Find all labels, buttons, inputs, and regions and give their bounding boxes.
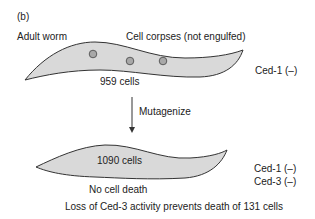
top-genotype-ced1: Ced-1 (–) (255, 65, 297, 77)
bottom-genotype-ced1: Ced-1 (–) (254, 163, 296, 175)
caption: Loss of Ced-3 activity prevents death of… (65, 201, 283, 213)
adult-worm-label: Adult worm (17, 31, 67, 43)
top-cell-count: 959 cells (100, 76, 139, 88)
cell-corpse (126, 57, 134, 65)
cell-corpse (159, 57, 167, 65)
no-cell-death-note: No cell death (89, 184, 147, 196)
cell-corpse (89, 50, 97, 58)
panel-label: (b) (17, 11, 29, 23)
corpse-label: Cell corpses (not engulfed) (126, 31, 246, 43)
arrow-label: Mutagenize (139, 106, 191, 118)
bottom-genotype-ced3: Ced-3 (–) (254, 176, 296, 188)
bottom-cell-count: 1090 cells (97, 155, 142, 167)
arrow-head-icon (129, 127, 135, 133)
